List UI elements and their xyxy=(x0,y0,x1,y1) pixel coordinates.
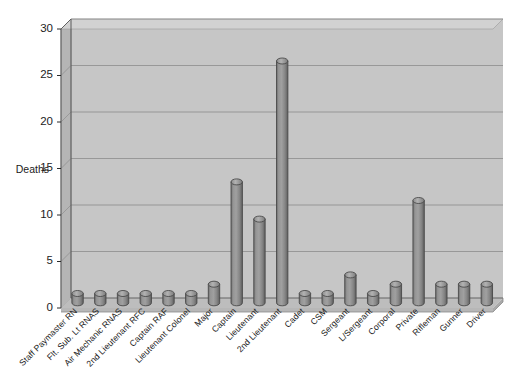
bar xyxy=(231,179,242,306)
bar xyxy=(367,291,378,306)
bar xyxy=(186,291,197,306)
bar xyxy=(277,58,288,306)
bar xyxy=(208,281,219,306)
bar-chart: Deaths 051015202530 Staff Paymaster RNFl… xyxy=(0,0,518,390)
bar xyxy=(436,281,447,306)
bar xyxy=(95,291,106,306)
bar xyxy=(140,291,151,306)
bar xyxy=(390,281,401,306)
bar xyxy=(345,272,356,306)
bar xyxy=(299,291,310,306)
bar xyxy=(72,291,83,306)
bar xyxy=(481,281,492,306)
bar xyxy=(254,216,265,306)
plot-area xyxy=(0,0,518,390)
bar xyxy=(322,291,333,306)
bar xyxy=(413,198,424,306)
bar xyxy=(117,291,128,306)
bar xyxy=(458,281,469,306)
bar xyxy=(163,291,174,306)
